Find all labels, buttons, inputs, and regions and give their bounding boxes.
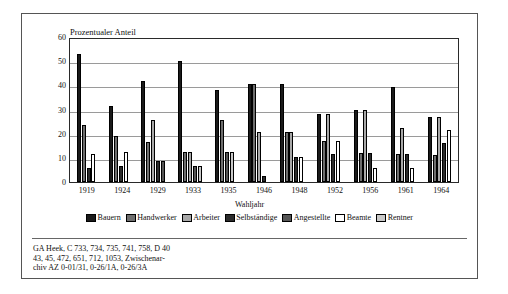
bar [77,54,81,182]
bar [151,120,155,182]
bar [230,152,234,182]
legend-label: Handwerker [137,213,177,222]
bar [119,166,123,182]
bar-group [215,39,234,182]
y-axis-tick: 60 [44,34,66,42]
bar [289,132,293,182]
bar [178,61,182,182]
bar [363,110,367,183]
bar-group [279,39,303,182]
bar [215,90,219,182]
legend-item[interactable]: Beamte [335,213,371,222]
x-axis-tick: 1929 [140,186,175,195]
bar [405,154,409,182]
bar [322,141,326,182]
source-line: chiv AZ 0-01/31, 0-26/1A, 0-26/3A [33,263,467,273]
x-axis-tick-labels: 1919192419291933193519461948195219561961… [69,186,459,195]
source-note: GA Heek, C 733, 734, 735, 741, 758, D 40… [33,244,467,273]
bar [437,117,441,182]
y-axis-tick: 10 [44,155,66,163]
source-line: GA Heek, C 733, 734, 735, 741, 758, D 40 [33,244,467,254]
bar-group [109,39,128,182]
legend-swatch-icon [126,214,136,222]
legend-label: Rentner [388,213,413,222]
bar [141,81,145,183]
bar [248,84,252,182]
legend-item[interactable]: Rentner [376,213,413,222]
y-axis-title: Prozentualer Anteil [70,27,136,37]
x-axis-tick: 1946 [246,186,281,195]
x-axis-tick: 1924 [104,186,139,195]
bar [262,176,266,182]
x-axis-tick: 1964 [424,186,459,195]
y-axis-tick: 50 [44,58,66,66]
bar-group [353,39,377,182]
bar [257,132,261,182]
plot-area [69,38,459,183]
legend-item[interactable]: Selbständige [225,213,277,222]
legend-label: Selbständige [236,213,277,222]
bar [294,157,298,182]
bar [146,142,150,182]
bar [410,168,414,183]
bar [220,120,224,182]
bar [188,152,192,182]
bar-group [390,39,414,182]
bar [280,84,284,182]
bar [124,152,128,182]
x-axis-tick: 1961 [388,186,423,195]
bar [326,114,330,182]
bar-group [178,39,202,182]
bar [82,125,86,182]
bar-group [427,39,451,182]
bar [354,110,358,183]
bar [193,166,197,182]
y-axis-tick: 20 [44,131,66,139]
bar [400,128,404,182]
bar [359,153,363,182]
legend-swatch-icon [182,214,192,222]
bar [368,153,372,182]
bar [428,117,432,182]
legend-swatch-icon [376,214,386,222]
bar-group [141,39,165,182]
legend-swatch-icon [282,214,292,222]
legend-label: Beamte [347,213,371,222]
divider [32,238,467,239]
legend-item[interactable]: Handwerker [126,213,177,222]
legend-label: Angestellte [294,213,330,222]
legend-label: Bauern [98,213,121,222]
bar [252,84,256,182]
bar [336,141,340,182]
bar [87,168,91,183]
legend-label: Arbeiter [193,213,220,222]
legend-item[interactable]: Arbeiter [182,213,220,222]
bar [447,130,451,182]
bar [299,157,303,182]
x-axis-tick: 1919 [69,186,104,195]
legend-item[interactable]: Angestellte [282,213,330,222]
x-axis-tick: 1956 [353,186,388,195]
bar [114,136,118,182]
bar [396,154,400,182]
legend-swatch-icon [225,214,235,222]
bar [433,155,437,182]
bar-group [247,39,266,182]
legend-item[interactable]: Bauern [86,213,121,222]
figure-frame: Prozentualer Anteil 0102030405060 191919… [21,13,478,279]
source-line: 43, 45, 472, 651, 712, 1053, Zwischenar- [33,254,467,264]
bar-group [316,39,340,182]
bar [161,161,165,182]
bar [285,132,289,182]
bar-groups [70,39,458,182]
bar [109,106,113,182]
bar [442,143,446,182]
bar [183,152,187,182]
bar [373,168,377,183]
bar [317,114,321,182]
bar [391,87,395,182]
y-axis-tick: 0 [44,179,66,187]
x-axis-tick: 1952 [317,186,352,195]
y-axis-tick: 30 [44,107,66,115]
legend-swatch-icon [86,214,96,222]
